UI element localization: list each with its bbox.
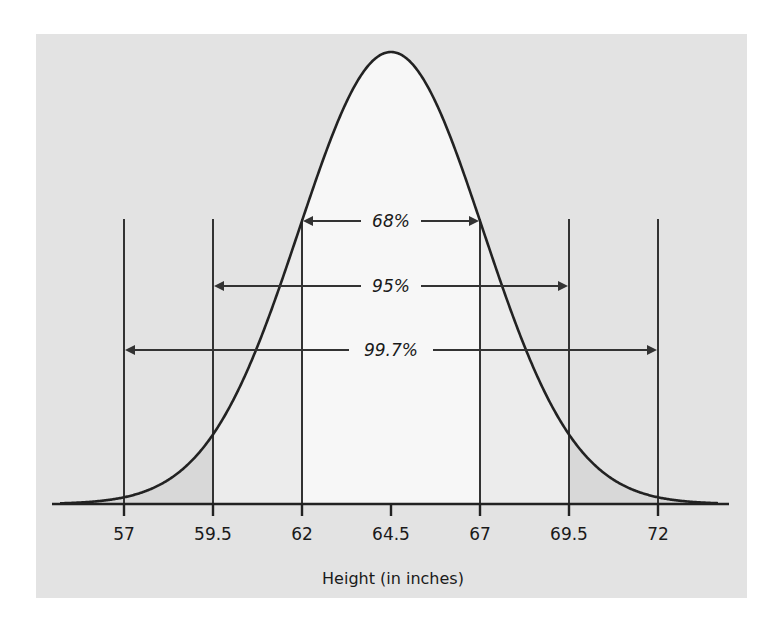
normal-distribution-chart: 5759.56264.56769.572 68%95%99.7% Height … [0, 0, 779, 626]
x-axis-title: Height (in inches) [322, 569, 464, 588]
x-tick-label: 69.5 [550, 524, 588, 544]
x-tick-label: 67 [469, 524, 491, 544]
x-tick-label: 64.5 [372, 524, 410, 544]
x-tick-label: 57 [113, 524, 135, 544]
interval-percent-label: 68% [372, 211, 410, 231]
interval-percent-label: 95% [372, 276, 410, 296]
chart-canvas: 5759.56264.56769.572 68%95%99.7% Height … [0, 0, 779, 626]
x-tick-label: 62 [291, 524, 313, 544]
x-tick-label: 72 [647, 524, 669, 544]
x-tick-label: 59.5 [194, 524, 232, 544]
interval-percent-label: 99.7% [364, 340, 418, 360]
